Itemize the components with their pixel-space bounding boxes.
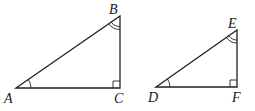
triangle-abc-shape: [16, 16, 120, 88]
right-angle-f-marker: [230, 80, 237, 87]
triangle-def: [156, 30, 237, 87]
angle-b-arc-inner: [111, 22, 120, 26]
right-angle-c-marker: [113, 81, 120, 88]
angle-a-arc: [28, 80, 31, 89]
vertex-label-c: C: [114, 91, 124, 106]
triangle-abc: [16, 16, 120, 88]
vertex-label-a: A: [3, 91, 13, 106]
vertex-label-b: B: [109, 2, 118, 17]
vertex-label-d: D: [147, 90, 158, 105]
angle-d-arc: [168, 79, 171, 87]
vertex-label-f: F: [231, 90, 241, 105]
similar-triangles-diagram: A B C D E F: [0, 0, 255, 111]
vertex-label-e: E: [227, 16, 237, 31]
triangle-def-shape: [156, 30, 237, 87]
angle-e-arc-inner: [229, 36, 237, 40]
